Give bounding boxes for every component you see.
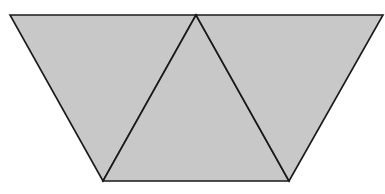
trapezoid-diagram bbox=[0, 0, 385, 194]
